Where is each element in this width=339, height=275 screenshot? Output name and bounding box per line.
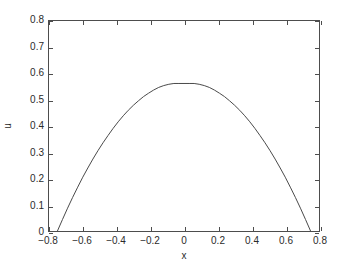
- y-tick-label: 0.6: [30, 68, 44, 78]
- x-axis-label: x: [182, 251, 187, 261]
- y-tick-mark: [49, 21, 53, 22]
- y-tick-mark: [49, 74, 53, 75]
- x-tick-label: −0.6: [72, 236, 92, 246]
- x-tick-label: 0.4: [245, 236, 259, 246]
- x-tick-mark-top: [185, 21, 186, 25]
- y-tick-mark: [49, 233, 53, 234]
- x-tick-mark: [117, 227, 118, 231]
- x-tick-label: −0.4: [106, 236, 126, 246]
- y-tick-label: 0.1: [30, 201, 44, 211]
- y-tick-label: 0.4: [30, 121, 44, 131]
- x-tick-mark: [287, 227, 288, 231]
- y-tick-mark-right: [315, 101, 319, 102]
- y-tick-label: 0.7: [30, 42, 44, 52]
- x-tick-mark-top: [287, 21, 288, 25]
- x-tick-mark-top: [253, 21, 254, 25]
- y-tick-label: 0.8: [30, 15, 44, 25]
- y-tick-mark-right: [315, 233, 319, 234]
- x-tick-mark: [253, 227, 254, 231]
- y-tick-mark: [49, 154, 53, 155]
- x-tick-mark: [151, 227, 152, 231]
- curve-polyline: [57, 83, 310, 231]
- y-tick-label: 0.5: [30, 95, 44, 105]
- y-tick-mark: [49, 48, 53, 49]
- x-tick-mark-top: [219, 21, 220, 25]
- y-tick-mark: [49, 207, 53, 208]
- x-tick-mark: [49, 227, 50, 231]
- data-curve: [49, 21, 319, 231]
- y-tick-mark-right: [315, 180, 319, 181]
- y-axis-label: u: [3, 123, 13, 129]
- axes-box: [48, 20, 320, 232]
- x-tick-mark: [219, 227, 220, 231]
- x-tick-label: 0.6: [279, 236, 293, 246]
- y-tick-label: 0.2: [30, 174, 44, 184]
- x-tick-label: −0.8: [38, 236, 58, 246]
- y-tick-mark-right: [315, 154, 319, 155]
- figure-canvas: −0.8−0.6−0.4−0.200.20.40.60.8 00.10.20.3…: [0, 0, 339, 275]
- x-tick-mark-top: [117, 21, 118, 25]
- y-tick-mark: [49, 101, 53, 102]
- x-tick-label: 0.2: [211, 236, 225, 246]
- y-tick-mark: [49, 127, 53, 128]
- x-tick-label: −0.2: [140, 236, 160, 246]
- x-tick-mark: [83, 227, 84, 231]
- x-tick-mark: [321, 227, 322, 231]
- x-tick-mark-top: [151, 21, 152, 25]
- y-tick-mark-right: [315, 207, 319, 208]
- x-tick-mark-top: [321, 21, 322, 25]
- y-tick-label: 0: [38, 227, 44, 237]
- plot-area: [49, 21, 319, 231]
- y-tick-label: 0.3: [30, 148, 44, 158]
- y-tick-mark-right: [315, 127, 319, 128]
- y-tick-mark-right: [315, 74, 319, 75]
- y-tick-mark-right: [315, 21, 319, 22]
- x-tick-mark-top: [83, 21, 84, 25]
- y-tick-mark: [49, 180, 53, 181]
- y-tick-mark-right: [315, 48, 319, 49]
- x-tick-label: 0: [181, 236, 187, 246]
- x-tick-mark: [185, 227, 186, 231]
- x-tick-label: 0.8: [313, 236, 327, 246]
